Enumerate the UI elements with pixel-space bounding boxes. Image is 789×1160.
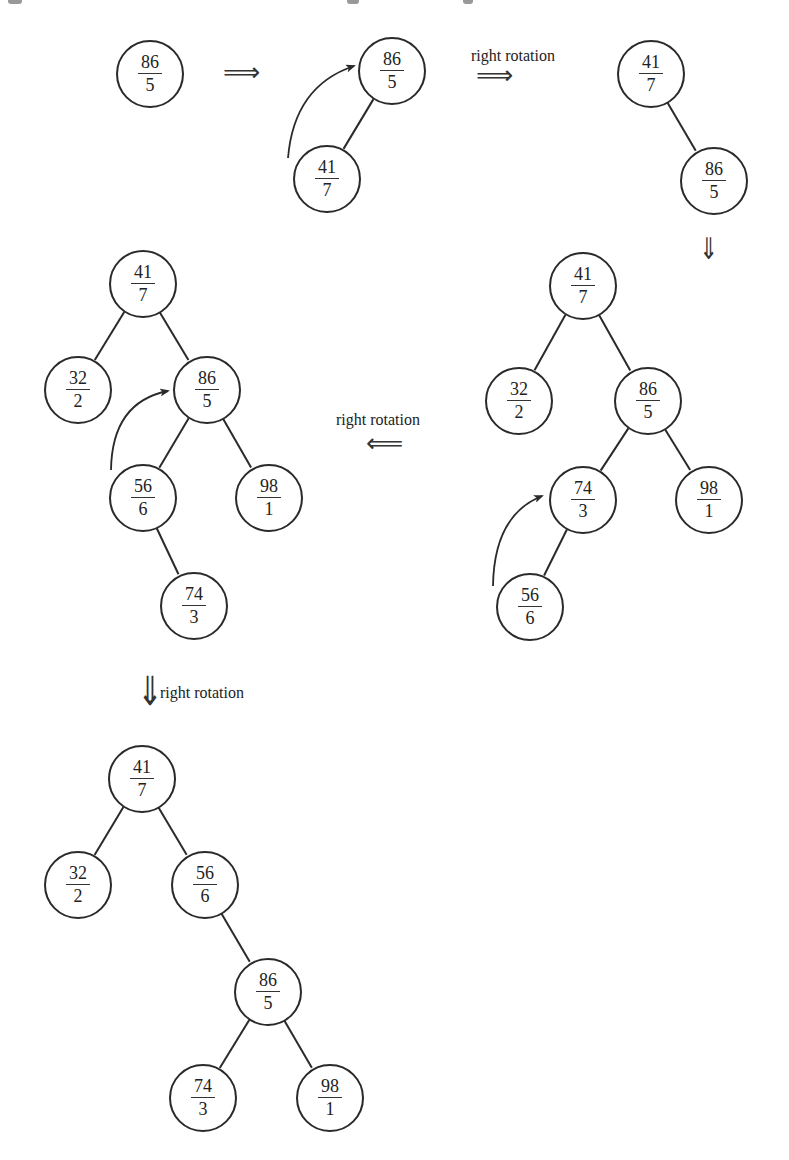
tree-node: 322 <box>44 851 112 919</box>
node-fraction: 865 <box>616 369 680 433</box>
node-key: 86 <box>616 379 680 399</box>
node-key: 86 <box>236 970 300 990</box>
tree-edge <box>223 418 251 467</box>
tree-node: 417 <box>109 250 177 318</box>
node-priority: 7 <box>110 780 174 800</box>
tree-node: 865 <box>116 40 184 108</box>
node-priority: 3 <box>162 607 226 627</box>
node-priority: 7 <box>619 75 683 95</box>
tree-node: 322 <box>485 367 553 435</box>
tree-node: 417 <box>108 745 176 813</box>
treap-rotation-diagram: 8658654174178654173228657439815664173228… <box>0 0 789 1160</box>
fraction-bar <box>182 605 206 606</box>
node-key: 86 <box>118 52 182 72</box>
tree-edge <box>665 429 690 470</box>
fraction-bar <box>257 497 281 498</box>
tree-node: 981 <box>296 1064 364 1132</box>
node-key: 74 <box>162 584 226 604</box>
tree-node: 865 <box>358 37 426 105</box>
transition-arrow-right-icon: ⟹ <box>476 62 513 88</box>
node-priority: 7 <box>111 285 175 305</box>
rotation-arrow-icon <box>111 391 168 470</box>
fraction-bar <box>697 499 721 500</box>
node-fraction: 566 <box>498 575 562 639</box>
fraction-bar <box>315 178 339 179</box>
tree-edge <box>220 1020 249 1068</box>
node-priority: 7 <box>295 180 359 200</box>
node-fraction: 417 <box>295 147 359 211</box>
tree-edge <box>95 312 124 360</box>
node-priority: 5 <box>360 72 424 92</box>
tree-node: 417 <box>293 145 361 213</box>
node-priority: 5 <box>175 391 239 411</box>
fraction-bar <box>138 73 162 74</box>
node-priority: 1 <box>298 1099 362 1119</box>
tree-edge <box>159 418 188 468</box>
node-fraction: 566 <box>173 853 237 917</box>
fraction-bar <box>507 400 531 401</box>
tree-node: 981 <box>235 464 303 532</box>
node-fraction: 865 <box>360 39 424 103</box>
tree-edge <box>221 913 249 961</box>
node-fraction: 417 <box>111 252 175 316</box>
tree-node: 322 <box>44 356 112 424</box>
node-priority: 6 <box>173 886 237 906</box>
node-fraction: 743 <box>162 574 226 638</box>
node-key: 74 <box>551 478 615 498</box>
node-key: 41 <box>295 157 359 177</box>
tree-step4 <box>493 315 690 586</box>
fraction-bar <box>256 991 280 992</box>
node-fraction: 981 <box>677 468 741 532</box>
node-priority: 3 <box>171 1099 235 1119</box>
node-key: 74 <box>171 1076 235 1096</box>
node-fraction: 865 <box>118 42 182 106</box>
fraction-bar <box>191 1097 215 1098</box>
tree-edge <box>535 315 566 371</box>
tree-step5 <box>95 312 251 574</box>
transition-label: right rotation <box>471 47 555 65</box>
transition-label: right rotation <box>160 684 244 702</box>
cropped-text-fragment <box>347 0 359 4</box>
node-priority: 2 <box>46 391 110 411</box>
fraction-bar <box>66 389 90 390</box>
node-key: 56 <box>111 476 175 496</box>
transition-arrow-left-icon: ⟸ <box>366 430 403 456</box>
node-key: 32 <box>46 863 110 883</box>
cropped-text-fragment <box>463 0 473 4</box>
fraction-bar <box>639 73 663 74</box>
node-key: 41 <box>110 757 174 777</box>
node-priority: 1 <box>237 499 301 519</box>
node-fraction: 322 <box>487 369 551 433</box>
node-fraction: 865 <box>236 960 300 1024</box>
tree-node: 865 <box>680 147 748 215</box>
fraction-bar <box>318 1097 342 1098</box>
node-priority: 5 <box>616 402 680 422</box>
tree-edge <box>158 807 186 855</box>
tree-edge <box>95 807 124 855</box>
tree-edge <box>344 99 374 149</box>
rotation-arrow-icon <box>288 66 354 158</box>
node-key: 98 <box>237 476 301 496</box>
tree-node: 417 <box>617 40 685 108</box>
fraction-bar <box>130 778 154 779</box>
tree-edge <box>157 528 179 575</box>
tree-node: 566 <box>171 851 239 919</box>
node-priority: 2 <box>487 402 551 422</box>
node-fraction: 417 <box>551 254 615 318</box>
node-key: 98 <box>298 1076 362 1096</box>
node-key: 32 <box>487 379 551 399</box>
node-fraction: 417 <box>619 42 683 106</box>
tree-step6 <box>95 807 312 1068</box>
node-priority: 5 <box>236 993 300 1013</box>
fraction-bar <box>131 497 155 498</box>
edges-and-arcs-layer <box>0 0 789 1160</box>
fraction-bar <box>518 606 542 607</box>
tree-node: 743 <box>160 572 228 640</box>
fraction-bar <box>636 400 660 401</box>
fraction-bar <box>702 180 726 181</box>
node-key: 98 <box>677 478 741 498</box>
node-key: 32 <box>46 368 110 388</box>
node-priority: 3 <box>551 501 615 521</box>
tree-node: 417 <box>549 252 617 320</box>
node-priority: 7 <box>551 287 615 307</box>
